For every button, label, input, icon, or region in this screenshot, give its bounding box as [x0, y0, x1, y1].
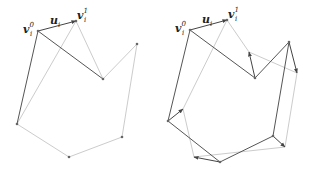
vertex-dot — [136, 43, 139, 46]
vector-arrow — [289, 42, 297, 73]
light-edge — [249, 52, 297, 73]
vertex-dot — [189, 29, 192, 32]
label-v0: v0i — [175, 20, 186, 37]
light-edge — [76, 21, 103, 79]
vector-arrow — [273, 136, 285, 147]
label-u: ui — [202, 13, 212, 28]
light-edge — [122, 44, 137, 137]
label-u: ui — [50, 14, 60, 29]
vertex-dot — [68, 156, 71, 159]
light-edge — [69, 137, 122, 157]
panel-right-offset-polygon — [167, 19, 297, 164]
panel-left-original-polygon — [16, 20, 139, 159]
vertex-dot — [288, 41, 291, 44]
vertex-dot — [121, 136, 124, 139]
light-edge — [17, 124, 69, 157]
vertex-dot — [167, 120, 170, 123]
dark-edge — [38, 31, 103, 79]
dark-edge — [168, 30, 190, 121]
light-edge — [285, 73, 297, 147]
vertex-dot — [272, 135, 275, 138]
vertex-dot — [219, 161, 222, 164]
vertex-dot — [37, 30, 40, 33]
diagram-canvas: v0i v1i ui v0i v1i ui — [0, 0, 313, 170]
dark-edge — [190, 30, 255, 78]
vertex-dot — [16, 123, 19, 126]
dark-edge — [17, 31, 38, 124]
labels-right: v0i v1i ui — [175, 6, 239, 37]
label-v1: v1i — [77, 7, 88, 24]
light-edge — [183, 109, 194, 157]
vertex-dot — [254, 77, 257, 80]
label-v0: v0i — [23, 21, 34, 38]
light-edge — [227, 20, 249, 52]
light-edge — [17, 21, 76, 124]
vertex-dot — [102, 78, 105, 81]
polygon-diagram: v0i v1i ui v0i v1i ui — [0, 0, 313, 170]
label-v1: v1i — [228, 6, 239, 23]
labels-left: v0i v1i ui — [23, 7, 88, 38]
